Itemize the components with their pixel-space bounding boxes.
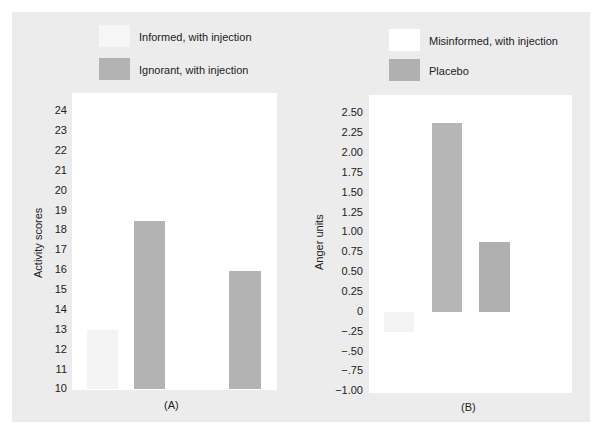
y-tick: 23: [19, 124, 67, 136]
y-tick: −1.00: [315, 384, 363, 396]
legend-swatch-misinformed: [389, 29, 420, 51]
y-tick: −.75: [315, 364, 363, 376]
y-tick: 0: [315, 305, 363, 317]
legend-swatch-placebo: [389, 59, 420, 81]
y-tick: 21: [19, 164, 67, 176]
y-tick: 22: [19, 144, 67, 156]
chart-b-y-axis-label: Anger units: [313, 214, 325, 270]
legend-swatch-informed: [99, 25, 130, 47]
legend-label-misinformed: Misinformed, with injection: [429, 35, 558, 47]
y-tick: 2.50: [315, 106, 363, 118]
y-tick: 18: [19, 223, 67, 235]
bar-a-informed: [87, 330, 118, 389]
bar-b-ignorant: [432, 123, 462, 312]
y-tick: 0.50: [315, 265, 363, 277]
y-tick: 19: [19, 204, 67, 216]
y-tick: 16: [19, 263, 67, 275]
legend-swatch-ignorant: [99, 58, 130, 80]
y-tick: 14: [19, 303, 67, 315]
y-tick: 13: [19, 323, 67, 335]
y-tick: 10: [19, 382, 67, 394]
chart-b-caption: (B): [461, 401, 476, 413]
y-tick: 24: [19, 104, 67, 116]
y-tick: 20: [19, 184, 67, 196]
y-tick: 15: [19, 283, 67, 295]
chart-b-plot-area: [369, 95, 572, 393]
y-tick: 12: [19, 343, 67, 355]
chart-a-caption: (A): [164, 399, 179, 411]
y-tick: 11: [19, 363, 67, 375]
y-tick: −.25: [315, 325, 363, 337]
bar-b-placebo: [479, 242, 510, 312]
legend-label-ignorant: Ignorant, with injection: [139, 64, 248, 76]
y-tick: 1.00: [315, 225, 363, 237]
y-tick: 1.25: [315, 206, 363, 218]
y-tick: −.50: [315, 345, 363, 357]
bar-a-ignorant-1: [134, 221, 165, 389]
legend-label-placebo: Placebo: [429, 65, 469, 77]
y-tick: 1.75: [315, 166, 363, 178]
y-tick: 1.50: [315, 186, 363, 198]
y-tick: 0.75: [315, 245, 363, 257]
y-tick: 2.00: [315, 146, 363, 158]
y-tick: 2.25: [315, 126, 363, 138]
legend-label-informed: Informed, with injection: [139, 31, 252, 43]
y-tick: 17: [19, 243, 67, 255]
y-tick: 0.25: [315, 285, 363, 297]
bar-a-ignorant-2: [229, 271, 261, 389]
bar-b-misinformed: [384, 312, 414, 332]
